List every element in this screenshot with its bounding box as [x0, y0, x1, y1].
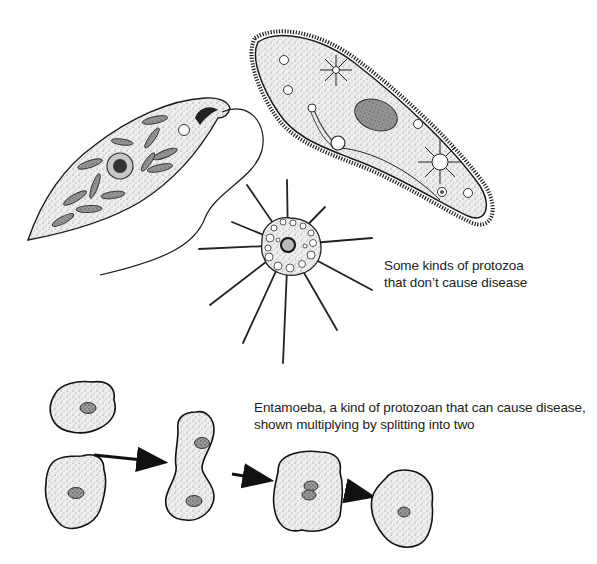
caption-line: Entamoeba, a kind of protozoan that can … [254, 399, 586, 416]
caption-line: that don’t cause disease [384, 274, 527, 291]
caption-line: shown multiplying by splitting into two [254, 416, 586, 433]
caption-non-disease-protozoa: Some kinds of protozoa that don’t cause … [384, 257, 527, 291]
heliozoan-organism [199, 180, 372, 363]
caption-entamoeba: Entamoeba, a kind of protozoan that can … [254, 399, 586, 433]
caption-line: Some kinds of protozoa [384, 257, 527, 274]
